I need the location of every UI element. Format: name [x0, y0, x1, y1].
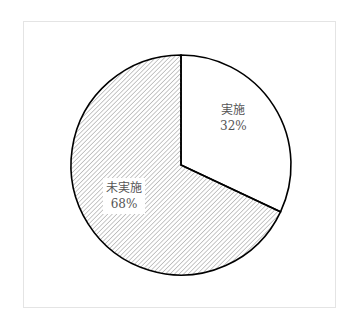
slice-percent-label: 32% — [220, 118, 247, 134]
slice-category-label: 未実施 — [106, 180, 142, 196]
slice-percent-label: 68% — [106, 196, 142, 212]
slice-category-label: 実施 — [220, 102, 247, 118]
pie-chart — [0, 0, 358, 332]
slice-label-implemented: 実施 32% — [220, 102, 247, 134]
slice-label-not-implemented: 未実施 68% — [103, 178, 145, 214]
